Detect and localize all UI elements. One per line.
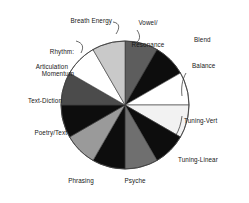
label-poetry-text: Poetry/Text	[1, 129, 67, 136]
label-tuning-vert: Tuning-Vert	[184, 117, 246, 124]
label-balance: Balance	[192, 62, 246, 69]
label-vowel-resonance-line2: Resonance	[117, 41, 179, 48]
label-phrasing: Phrasing	[55, 177, 107, 184]
label-tuning-linear: Tuning-Linear	[178, 156, 246, 163]
label-rhythm-line2: Momentum	[6, 70, 74, 77]
label-vowel-resonance-line1: Vowel/	[117, 19, 179, 26]
label-breath-energy: Breath Energy	[28, 17, 112, 24]
label-blend: Blend	[194, 36, 244, 43]
label-text-diction: Text-Diction	[0, 97, 62, 104]
label-rhythm-line1: Rhythm:	[6, 48, 74, 55]
label-articulation: Articulation	[2, 63, 68, 70]
leader-rhythm-momentum	[76, 41, 83, 53]
choral-wheel-figure: Vowel/ Resonance Breath Energy Rhythm: M…	[0, 0, 249, 203]
label-psyche: Psyche	[113, 177, 157, 184]
label-vowel-resonance: Vowel/ Resonance	[117, 4, 179, 63]
